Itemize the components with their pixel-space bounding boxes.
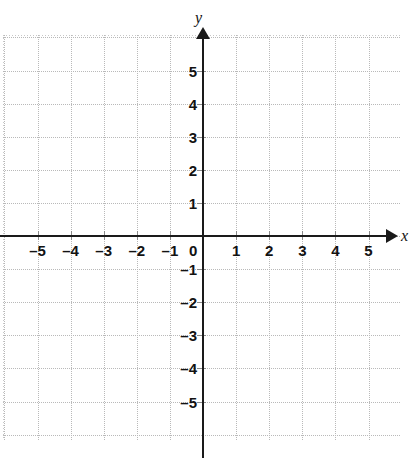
x-axis-arrowhead-icon bbox=[386, 229, 398, 243]
x-tick-label: –1 bbox=[162, 243, 179, 258]
x-axis-line bbox=[0, 235, 388, 237]
y-tick-label: 2 bbox=[167, 162, 197, 177]
origin-tick-label: 0 bbox=[189, 243, 197, 258]
y-axis-line bbox=[202, 38, 204, 458]
y-tick-label: 1 bbox=[167, 195, 197, 210]
y-tick-label: –4 bbox=[167, 361, 197, 376]
y-axis-arrowhead-icon bbox=[196, 27, 210, 39]
x-tick-label: –4 bbox=[62, 243, 79, 258]
y-tick-label: –2 bbox=[167, 295, 197, 310]
y-tick-label: 4 bbox=[167, 96, 197, 111]
x-tick-label: 5 bbox=[364, 243, 372, 258]
y-tick-label: –1 bbox=[167, 262, 197, 277]
y-tick-label: –3 bbox=[167, 328, 197, 343]
y-axis-label: y bbox=[195, 9, 202, 27]
x-tick-label: –5 bbox=[29, 243, 46, 258]
x-tick-label: 1 bbox=[232, 243, 240, 258]
y-tick-label: 5 bbox=[167, 63, 197, 78]
x-tick-label: 3 bbox=[298, 243, 306, 258]
x-tick-label: –2 bbox=[128, 243, 145, 258]
x-tick-label: 4 bbox=[331, 243, 339, 258]
x-tick-label: –3 bbox=[95, 243, 112, 258]
x-tick-label: 2 bbox=[265, 243, 273, 258]
y-tick-label: –5 bbox=[167, 394, 197, 409]
coordinate-plane-figure: x y –5–4–3–2–112345 54321–1–2–3–4–5 0 bbox=[0, 0, 414, 458]
x-axis-label: x bbox=[401, 227, 408, 245]
gridline-vertical bbox=[4, 35, 5, 440]
y-tick-label: 3 bbox=[167, 129, 197, 144]
